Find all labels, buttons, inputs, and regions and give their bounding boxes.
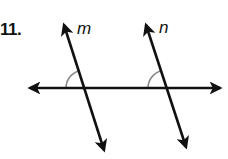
geometry-figure: 11. m n	[0, 0, 228, 159]
label-m: m	[77, 19, 91, 38]
angle-arc-n	[148, 71, 160, 88]
angle-arc-m	[66, 71, 78, 88]
parallel-lines-diagram: m n	[0, 0, 228, 159]
line-n	[146, 25, 186, 147]
label-n: n	[159, 18, 168, 37]
